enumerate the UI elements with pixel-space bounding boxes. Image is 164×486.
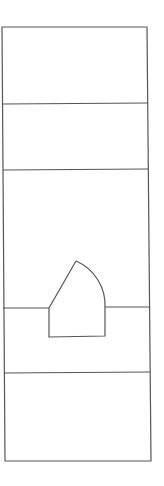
ledge-lines <box>3 307 150 308</box>
floor-plan-diagram <box>0 0 164 486</box>
band-dividers <box>3 103 150 373</box>
divider-line-1 <box>3 103 148 104</box>
divider-line-2 <box>3 169 148 170</box>
diagram-canvas <box>0 0 164 486</box>
divider-line-3 <box>4 372 150 373</box>
outer-frame <box>2 27 151 461</box>
house-shape <box>49 261 105 337</box>
